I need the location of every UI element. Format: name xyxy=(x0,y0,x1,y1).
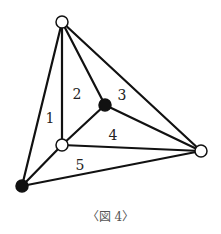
graph-figure: 1 2 3 4 5 〈図 4〉 xyxy=(0,0,221,234)
edge-center-right xyxy=(105,105,201,151)
region-label-5: 5 xyxy=(76,158,85,172)
edge-bottom-left-right xyxy=(22,151,201,186)
region-label-1: 1 xyxy=(46,111,55,125)
region-label-3: 3 xyxy=(118,88,127,102)
vertex-inner-left-open xyxy=(56,139,68,151)
edge-top-center xyxy=(62,22,105,105)
vertex-right-open xyxy=(195,145,207,157)
vertex-top-open xyxy=(56,16,68,28)
vertex-bottom-left-filled xyxy=(16,180,28,192)
edge-top-bottom-left xyxy=(22,22,62,186)
region-label-2: 2 xyxy=(73,87,82,101)
region-label-4: 4 xyxy=(109,128,118,142)
edge-center-inner-left xyxy=(62,105,105,145)
edge-inner-left-right xyxy=(62,145,201,151)
graph-diagram xyxy=(0,0,221,234)
vertex-center-filled xyxy=(99,99,111,111)
figure-caption: 〈図 4〉 xyxy=(0,207,221,224)
edge-top-right xyxy=(62,22,201,151)
graph-vertices xyxy=(16,16,207,192)
